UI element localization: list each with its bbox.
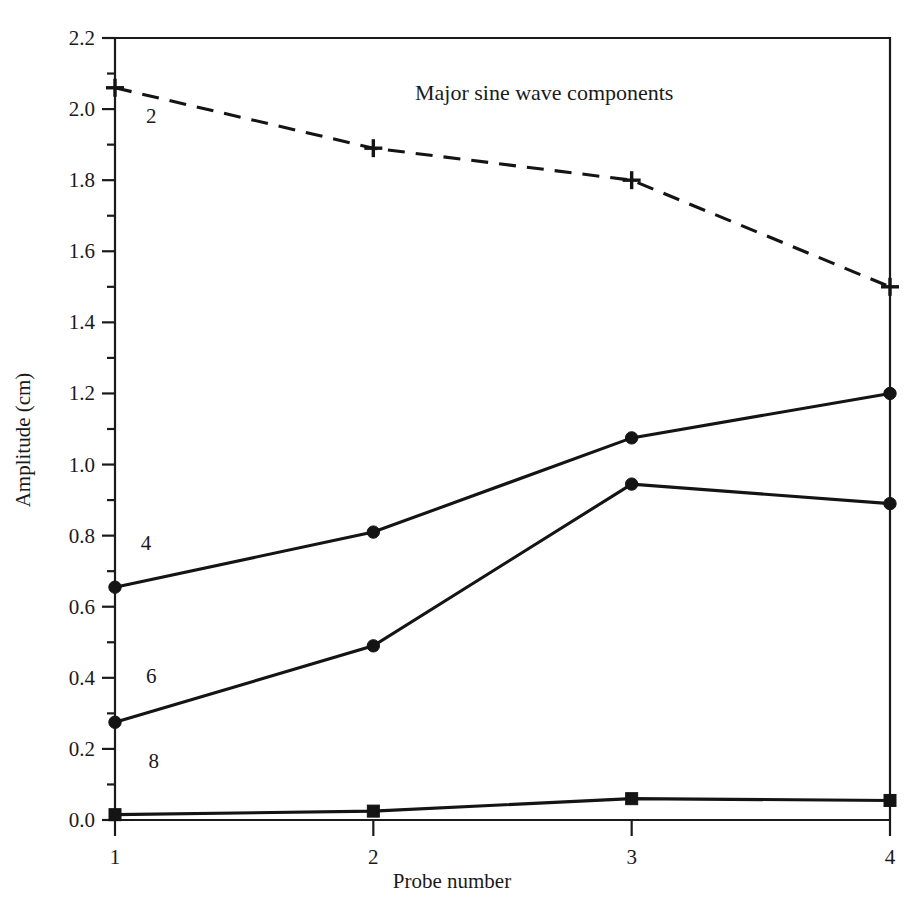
series-line-4 [115,393,890,587]
data-point-marker-plus [623,171,641,189]
y-tick-label: 0.6 [69,595,95,619]
data-point-marker-circle [625,478,637,490]
x-tick-label: 4 [885,845,896,869]
y-tick-label: 0.0 [69,808,95,832]
series-line-2 [115,88,890,287]
data-point-marker-circle [367,526,379,538]
y-axis-title: Amplitude (cm) [11,373,35,508]
series-line-6 [115,484,890,722]
data-point-marker-circle [884,497,896,509]
data-markers-group [106,79,899,821]
axes-group [115,38,890,820]
data-point-marker-circle [367,640,379,652]
y-tick-label: 1.6 [69,239,95,263]
data-point-marker-circle [109,716,121,728]
data-point-marker-plus [106,79,124,97]
series-line-8 [115,799,890,815]
y-tick-label: 0.8 [69,524,95,548]
y-tick-label: 1.2 [69,381,95,405]
chart-canvas: 0.00.20.40.60.81.01.21.41.61.82.02.2 123… [0,0,920,906]
x-tick-label: 1 [110,845,121,869]
data-point-marker-square [109,809,121,821]
series-label-8: 8 [149,749,160,773]
data-series-group [115,88,890,815]
chart-figure: 0.00.20.40.60.81.01.21.41.61.82.02.2 123… [0,0,920,906]
y-tick-label: 1.0 [69,453,95,477]
y-axis-tick-labels: 0.00.20.40.60.81.01.21.41.61.82.02.2 [69,26,96,832]
y-tick-label: 2.2 [69,26,95,50]
data-point-marker-square [884,794,896,806]
x-axis-title: Probe number [393,869,511,893]
data-point-marker-plus [881,278,899,296]
series-inline-labels: 2468 [141,104,159,773]
data-point-marker-circle [109,581,121,593]
data-point-marker-square [367,805,379,817]
plot-frame [115,38,890,820]
data-point-marker-circle [625,432,637,444]
y-tick-label: 1.8 [69,168,95,192]
y-tick-label: 1.4 [69,310,96,334]
data-point-marker-circle [884,387,896,399]
series-label-6: 6 [146,664,157,688]
x-tick-label: 2 [368,845,379,869]
series-label-4: 4 [141,531,152,555]
series-label-2: 2 [146,104,157,128]
x-tick-label: 3 [626,845,637,869]
data-point-marker-square [626,793,638,805]
y-tick-label: 2.0 [69,97,95,121]
data-point-marker-plus [364,139,382,157]
axis-ticks-group [102,38,890,836]
x-axis-tick-labels: 1234 [110,845,896,869]
chart-title: Major sine wave components [415,80,673,105]
y-tick-label: 0.4 [69,666,96,690]
y-tick-label: 0.2 [69,737,95,761]
